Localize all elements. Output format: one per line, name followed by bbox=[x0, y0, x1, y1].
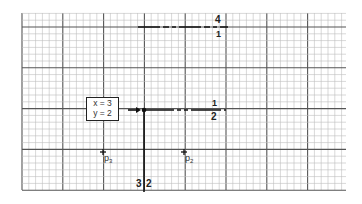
horizontal-line-label-below: 2 bbox=[211, 112, 217, 122]
y-coordinate-text: y = 2 bbox=[87, 108, 118, 118]
vertical-line-label-right: 2 bbox=[146, 179, 152, 189]
partition-diagram: 4 1 1 2 3 2 x = 3 y = 2 p3 p2 bbox=[0, 0, 362, 204]
horizontal-line-label-above: 1 bbox=[212, 98, 217, 108]
graph-paper-grid bbox=[0, 0, 362, 204]
top-line-label-below: 1 bbox=[216, 29, 221, 39]
current-point-dot bbox=[142, 108, 147, 113]
point-p3-label: p3 bbox=[104, 154, 112, 166]
top-line-label-above: 4 bbox=[215, 15, 221, 25]
vertical-line-label-left: 3 bbox=[136, 179, 142, 189]
pointer-arrowhead-icon bbox=[136, 107, 141, 113]
x-coordinate-text: x = 3 bbox=[87, 98, 118, 108]
coordinate-info-box: x = 3 y = 2 bbox=[86, 97, 119, 121]
point-p2-label: p2 bbox=[185, 154, 193, 166]
